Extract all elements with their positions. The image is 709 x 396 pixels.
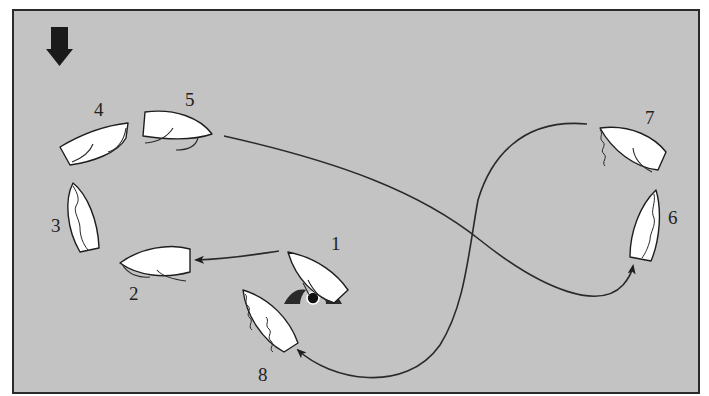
boat-label-7: 7 (645, 107, 655, 128)
diagram-frame (13, 10, 699, 393)
boat-label-6: 6 (668, 207, 678, 228)
boat-label-3: 3 (51, 215, 61, 236)
boat-label-8: 8 (258, 364, 268, 385)
boat-label-4: 4 (94, 99, 104, 120)
boat-label-5: 5 (185, 89, 195, 110)
sailing-diagram: 1 2 3 4 5 6 7 8 (0, 0, 709, 396)
boat-label-2: 2 (129, 283, 139, 304)
boat-label-1: 1 (331, 233, 341, 254)
